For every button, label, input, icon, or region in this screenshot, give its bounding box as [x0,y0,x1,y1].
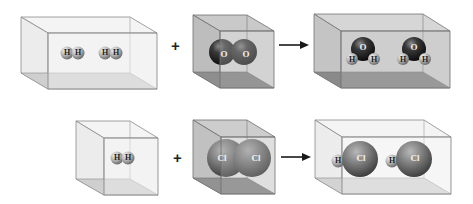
atom-label-h: H [125,154,131,162]
atom-label-h: H [64,49,70,57]
atom-label-h: H [102,49,108,57]
box-cl2-front-face [221,137,275,194]
atom-label-o: O [359,43,366,52]
plus-operator-row1: + [171,38,180,53]
atom-label-cl: Cl [218,154,227,163]
plus-operator-row2: + [173,150,182,165]
diagram-canvas [0,0,473,204]
atom-label-cl: Cl [252,154,261,163]
atom-label-cl: Cl [411,154,420,163]
reaction-diagram: + + .lbl { position: absolute; font-fami… [0,0,473,204]
reaction-arrow-row1 [279,41,309,49]
atom-label-h: H [400,56,406,64]
atom-label-h: H [389,157,395,165]
atom-label-h: H [75,49,81,57]
atom-label-h: H [371,56,377,64]
atom-label-h: H [114,154,120,162]
atom-label-h: H [113,49,119,57]
atom-label-o: O [410,43,417,52]
atom-label-o: O [220,50,227,59]
atom-label-h: H [335,157,341,165]
box-h2o-product [314,14,450,88]
box-h2-reactant-row1 [21,17,157,89]
box-o2-front-face [220,31,274,88]
atom-label-h: H [349,56,355,64]
atom-label-cl: Cl [357,154,366,163]
atom-label-o: O [242,50,249,59]
reaction-arrow-row2 [281,153,311,161]
atom-label-h: H [422,56,428,64]
